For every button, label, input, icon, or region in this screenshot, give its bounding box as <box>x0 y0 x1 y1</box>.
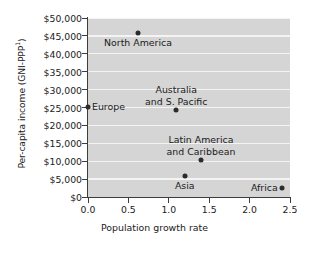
data-point <box>279 185 284 190</box>
data-point <box>86 105 91 110</box>
x-axis-title: Population growth rate <box>0 222 309 233</box>
y-axis-tick-mark <box>82 35 88 36</box>
x-axis-tick-label: 2.0 <box>242 204 257 215</box>
y-axis-tick-label: $45,000 <box>22 30 82 41</box>
y-axis-tick-label: $0 <box>22 192 82 203</box>
data-point <box>182 173 187 178</box>
x-axis-tick-label: 0.0 <box>81 204 96 215</box>
data-point <box>174 108 179 113</box>
data-point <box>136 31 141 36</box>
gridline <box>88 161 290 162</box>
x-axis-tick-mark <box>249 197 250 203</box>
gridline <box>88 125 290 126</box>
x-axis-tick-label: 1.0 <box>161 204 176 215</box>
data-point-label: Asia <box>175 180 195 192</box>
x-axis-tick-mark <box>209 197 210 203</box>
y-axis-tick-label: $20,000 <box>22 120 82 131</box>
y-axis-tick-label: $40,000 <box>22 48 82 59</box>
y-axis-tick-mark <box>82 18 88 19</box>
x-axis-line <box>87 197 290 198</box>
y-axis-tick-mark <box>82 71 88 72</box>
y-axis-title-superscript: 1 <box>14 42 21 46</box>
gridline <box>88 53 290 54</box>
data-point-label: Europe <box>92 101 125 113</box>
x-axis-tick-label: 2.5 <box>283 204 298 215</box>
y-axis-tick-mark <box>82 143 88 144</box>
x-axis-tick-mark <box>168 197 169 203</box>
y-axis-tick-label: $15,000 <box>22 138 82 149</box>
gridline <box>88 18 290 19</box>
y-axis-tick-mark <box>82 161 88 162</box>
data-point <box>199 158 204 163</box>
y-axis-tick-mark <box>82 125 88 126</box>
scatter-chart-figure: Per-capita income (GNI-PPP1) $0$5,000$10… <box>0 0 309 260</box>
x-axis-tick-label: 1.5 <box>202 204 217 215</box>
gridline <box>88 71 290 72</box>
y-axis-tick-label: $50,000 <box>22 13 82 24</box>
data-point-label: Australiaand S. Pacific <box>145 84 207 107</box>
x-axis-tick-mark <box>88 197 89 203</box>
y-axis-tick-label: $10,000 <box>22 156 82 167</box>
y-axis-tick-mark <box>82 89 88 90</box>
y-axis-tick-label: $30,000 <box>22 84 82 95</box>
y-axis-tick-mark <box>82 179 88 180</box>
y-axis-tick-labels: $0$5,000$10,000$15,000$20,000$25,000$30,… <box>22 0 82 260</box>
x-axis-tick-mark <box>128 197 129 203</box>
y-axis-tick-mark <box>82 53 88 54</box>
x-axis-tick-mark <box>290 197 291 203</box>
x-axis-tick-label: 0.5 <box>121 204 136 215</box>
data-point-label: North America <box>104 37 172 49</box>
y-axis-tick-label: $35,000 <box>22 66 82 77</box>
data-point-label: Latin Americaand Caribbean <box>167 134 236 157</box>
y-axis-tick-label: $5,000 <box>22 174 82 185</box>
data-point-label: Africa <box>251 182 278 194</box>
y-axis-tick-label: $25,000 <box>22 102 82 113</box>
